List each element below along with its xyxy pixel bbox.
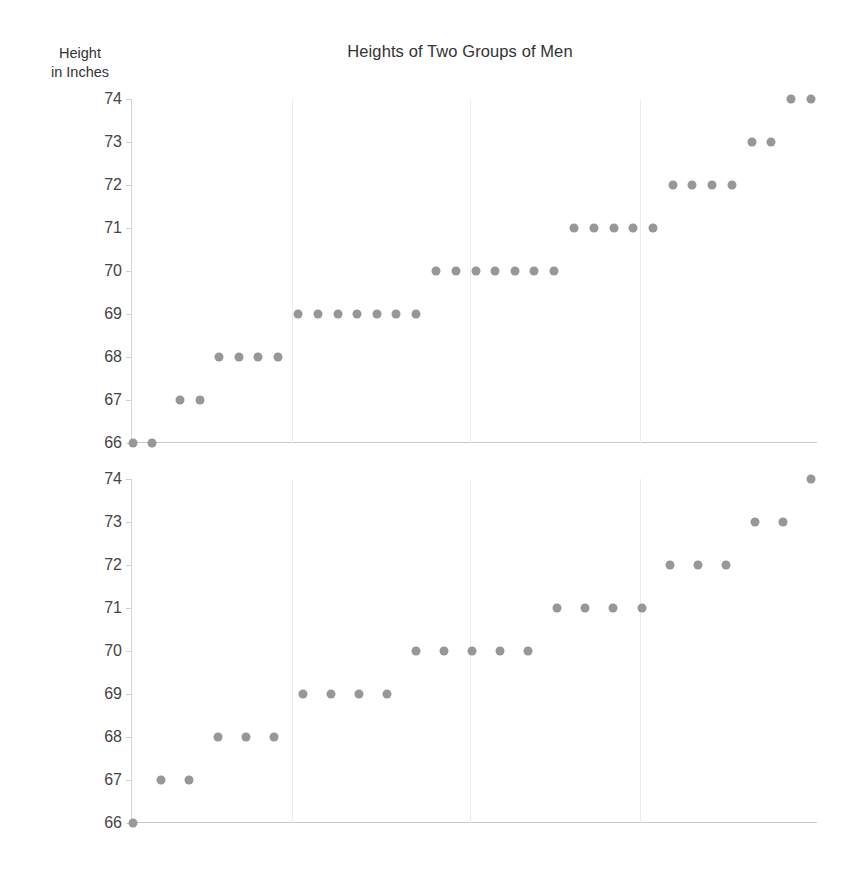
data-point	[439, 647, 448, 656]
data-point	[807, 95, 816, 104]
y-axis-line-bottom	[131, 479, 132, 823]
data-point	[787, 95, 796, 104]
data-point	[157, 776, 166, 785]
y-tick-label: 69	[82, 305, 122, 323]
chart-panel-top: 666768697071727374	[0, 0, 848, 460]
data-point	[637, 604, 646, 613]
data-point	[530, 267, 539, 276]
data-point	[254, 353, 263, 362]
chart-panel-bottom: 666768697071727374	[0, 410, 848, 877]
data-point	[270, 733, 279, 742]
data-point	[129, 819, 138, 828]
y-tick-mark	[126, 99, 131, 100]
data-point	[693, 561, 702, 570]
y-tick-label: 68	[82, 728, 122, 746]
data-point	[274, 353, 283, 362]
data-point	[552, 604, 561, 613]
data-point	[451, 267, 460, 276]
data-point	[778, 518, 787, 527]
y-tick-mark	[126, 651, 131, 652]
data-point	[185, 776, 194, 785]
y-tick-label: 71	[82, 219, 122, 237]
y-tick-label: 68	[82, 348, 122, 366]
y-tick-label: 70	[82, 262, 122, 280]
gridline-vertical	[640, 479, 641, 823]
data-point	[767, 138, 776, 147]
data-point	[668, 181, 677, 190]
dotplot-figure: Height in Inches Heights of Two Groups o…	[0, 0, 848, 877]
data-point	[411, 647, 420, 656]
data-point	[213, 733, 222, 742]
y-tick-label: 71	[82, 599, 122, 617]
data-point	[313, 310, 322, 319]
y-tick-mark	[126, 357, 131, 358]
data-point	[354, 690, 363, 699]
plot-area-bottom: 666768697071727374	[131, 479, 817, 823]
data-point	[496, 647, 505, 656]
data-point	[649, 224, 658, 233]
data-point	[432, 267, 441, 276]
data-point	[629, 224, 638, 233]
data-point	[609, 224, 618, 233]
data-point	[215, 353, 224, 362]
y-tick-label: 66	[82, 814, 122, 832]
y-tick-label: 74	[82, 90, 122, 108]
y-axis-line-top	[131, 99, 132, 443]
data-point	[235, 353, 244, 362]
data-point	[196, 396, 205, 405]
y-tick-label: 74	[82, 470, 122, 488]
y-tick-label: 67	[82, 771, 122, 789]
gridline-vertical	[292, 479, 293, 823]
data-point	[722, 561, 731, 570]
data-point	[294, 310, 303, 319]
data-point	[708, 181, 717, 190]
data-point	[392, 310, 401, 319]
y-tick-mark	[126, 228, 131, 229]
data-point	[581, 604, 590, 613]
y-tick-label: 67	[82, 391, 122, 409]
y-tick-label: 72	[82, 176, 122, 194]
data-point	[688, 181, 697, 190]
data-point	[353, 310, 362, 319]
data-point	[468, 647, 477, 656]
data-point	[471, 267, 480, 276]
data-point	[373, 310, 382, 319]
y-tick-label: 72	[82, 556, 122, 574]
y-tick-label: 69	[82, 685, 122, 703]
y-tick-mark	[126, 142, 131, 143]
data-point	[807, 475, 816, 484]
y-tick-label: 73	[82, 513, 122, 531]
data-point	[750, 518, 759, 527]
y-tick-mark	[126, 694, 131, 695]
data-point	[326, 690, 335, 699]
y-tick-mark	[126, 565, 131, 566]
data-point	[589, 224, 598, 233]
y-tick-label: 73	[82, 133, 122, 151]
data-point	[609, 604, 618, 613]
y-tick-mark	[126, 522, 131, 523]
data-point	[550, 267, 559, 276]
y-tick-mark	[126, 479, 131, 480]
data-point	[570, 224, 579, 233]
y-tick-mark	[126, 780, 131, 781]
plot-area-top: 666768697071727374	[131, 99, 817, 443]
x-axis-line-bottom	[131, 822, 817, 823]
gridline-vertical	[640, 99, 641, 443]
y-tick-mark	[126, 314, 131, 315]
y-tick-mark	[126, 271, 131, 272]
y-tick-mark	[126, 185, 131, 186]
data-point	[524, 647, 533, 656]
data-point	[176, 396, 185, 405]
y-tick-mark	[126, 737, 131, 738]
data-point	[665, 561, 674, 570]
y-tick-mark	[126, 400, 131, 401]
y-tick-label: 70	[82, 642, 122, 660]
data-point	[491, 267, 500, 276]
data-point	[412, 310, 421, 319]
data-point	[511, 267, 520, 276]
data-point	[727, 181, 736, 190]
data-point	[333, 310, 342, 319]
gridline-vertical	[292, 99, 293, 443]
y-tick-mark	[126, 608, 131, 609]
data-point	[747, 138, 756, 147]
